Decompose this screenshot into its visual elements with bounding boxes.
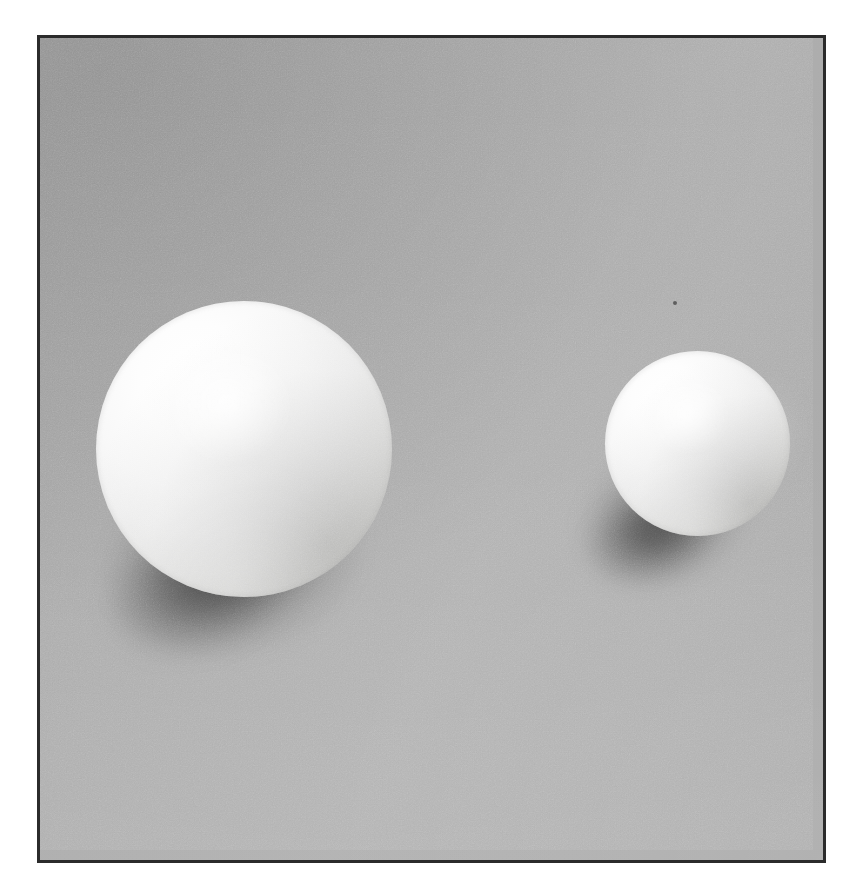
photo-frame <box>37 35 826 863</box>
photo-page <box>0 0 860 885</box>
sphere-large-rim <box>96 301 392 597</box>
dust-speck <box>673 301 677 305</box>
photo-scene <box>40 38 823 860</box>
sphere-large <box>96 301 392 597</box>
sphere-small-rim <box>605 351 790 536</box>
sphere-small <box>605 351 790 536</box>
